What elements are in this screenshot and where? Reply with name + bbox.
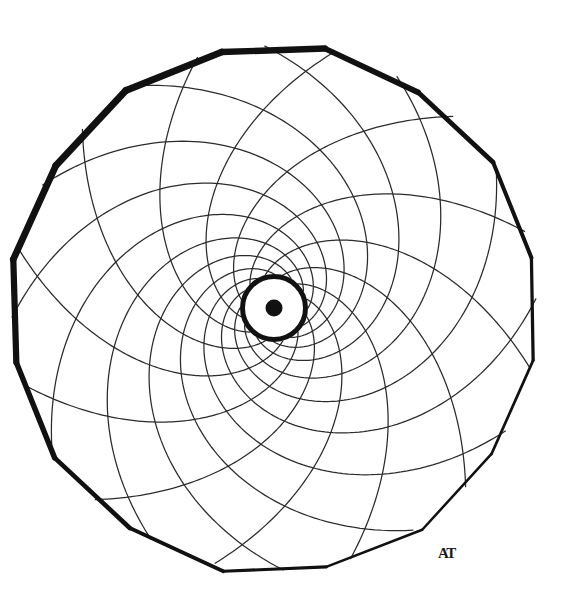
drawing-canvas: AT — [0, 0, 575, 615]
center-dot — [266, 300, 283, 317]
rim-edge — [222, 49, 325, 53]
artist-signature: AT — [438, 545, 456, 561]
spiral-mandala-svg: AT — [0, 0, 575, 615]
rim-edge — [13, 259, 16, 362]
rim-edge — [531, 258, 533, 361]
hub-layer — [243, 277, 306, 340]
